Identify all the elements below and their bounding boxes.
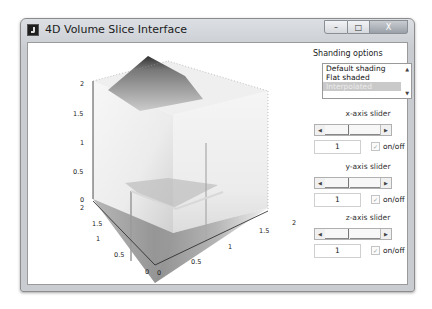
scroll-up-icon[interactable]: ▲ [405,66,409,72]
shading-option-default[interactable]: Default shading [323,64,411,73]
maximize-button[interactable]: □ [348,20,370,34]
app-window: 4D Volume Slice Interface – □ X [20,18,415,292]
arrow-right-icon[interactable]: ▶ [380,229,391,239]
y-tick-0: 0 [145,268,149,276]
slider-track [325,178,348,188]
y-onoff-label: on/off [383,195,405,204]
y-tick-0.5: 0.5 [114,251,124,259]
slider-track [350,178,381,188]
x-onoff-checkbox[interactable]: ✓ on/off [371,142,405,151]
shading-listbox[interactable]: Default shading Flat shaded Interpolated… [322,63,412,99]
listbox-scrollbar[interactable]: ▲ ▼ [402,64,411,98]
check-icon: ✓ [371,195,380,204]
y-onoff-checkbox[interactable]: ✓ on/off [371,195,405,204]
z-onoff-checkbox[interactable]: ✓ on/off [371,246,405,255]
check-icon: ✓ [371,246,380,255]
minimize-button[interactable]: – [324,20,348,34]
arrow-right-icon[interactable]: ▶ [380,125,391,135]
slider-track [350,229,381,239]
slider-track [325,229,348,239]
check-icon: ✓ [371,142,380,151]
y-tick-1: 1 [96,235,100,243]
control-panel: Shanding options Default shading Flat sh… [300,43,407,284]
y-tick-2: 2 [80,204,84,212]
slider-track [350,125,381,135]
x-tick-0.5: 0.5 [191,258,201,266]
y-slider-value[interactable]: 1 [314,193,361,207]
z-tick-2: 2 [80,80,84,88]
x-slider-label: x-axis slider [312,109,424,118]
x-tick-1: 1 [228,243,232,251]
title-bar[interactable]: 4D Volume Slice Interface – □ X [21,19,414,41]
figure-client-area: 0 0.5 1 1.5 2 2 1.5 1 0.5 0 0 0.5 1 1.5 … [27,42,408,285]
x-onoff-label: on/off [383,142,405,151]
z-slider-label: z-axis slider [312,213,424,222]
shading-option-interpolated[interactable]: Interpolated [323,82,401,91]
close-button[interactable]: X [370,20,408,34]
shading-options-label: Shanding options [313,49,383,58]
z-tick-0: 0 [80,196,84,204]
slider-track [325,125,348,135]
y-tick-1.5: 1.5 [92,220,102,228]
z-tick-1: 1 [80,139,84,147]
volume-slice-plot [28,43,298,283]
minimize-icon: – [334,23,338,32]
arrow-right-icon[interactable]: ▶ [380,178,391,188]
x-tick-2: 2 [292,219,296,227]
z-axis-slider[interactable]: ◀ ▶ [314,228,392,240]
maximize-icon: □ [355,23,363,32]
x-axis-slider[interactable]: ◀ ▶ [314,124,392,136]
x-tick-1.5: 1.5 [259,227,269,235]
close-icon: X [386,23,391,32]
y-axis-slider[interactable]: ◀ ▶ [314,177,392,189]
z-tick-1.5: 1.5 [73,110,83,118]
scroll-down-icon[interactable]: ▼ [405,90,409,96]
z-onoff-label: on/off [383,246,405,255]
x-slider-value[interactable]: 1 [314,140,361,154]
z-tick-0.5: 0.5 [73,168,83,176]
y-slider-label: y-axis slider [312,162,424,171]
3d-axes[interactable]: 0 0.5 1 1.5 2 2 1.5 1 0.5 0 0 0.5 1 1.5 … [28,43,298,283]
shading-option-flat[interactable]: Flat shaded [323,73,411,82]
matlab-figure-icon [27,24,39,36]
x-tick-0: 0 [157,269,161,277]
window-controls: – □ X [324,20,408,35]
z-slider-value[interactable]: 1 [314,244,361,258]
window-title: 4D Volume Slice Interface [45,23,187,36]
